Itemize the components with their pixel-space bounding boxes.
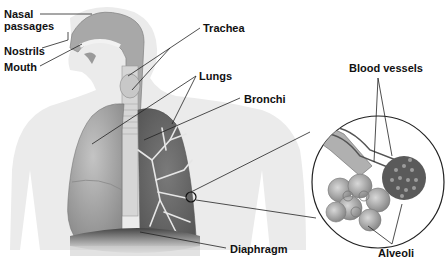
label-alveoli: Alveoli bbox=[378, 247, 414, 259]
respiratory-diagram: Nasal passages Nostrils Mouth Trachea Lu… bbox=[0, 0, 446, 269]
diagram-artwork bbox=[0, 0, 446, 269]
label-nasal-passages-1: Nasal bbox=[4, 8, 33, 20]
label-trachea: Trachea bbox=[203, 22, 245, 34]
label-nostrils: Nostrils bbox=[4, 45, 45, 57]
label-lungs: Lungs bbox=[199, 70, 232, 82]
label-nasal-passages-2: passages bbox=[4, 20, 54, 32]
trachea-shape bbox=[120, 66, 140, 216]
label-diaphragm: Diaphragm bbox=[230, 243, 287, 255]
label-mouth: Mouth bbox=[4, 61, 37, 73]
label-bronchi: Bronchi bbox=[244, 93, 286, 105]
label-blood-vessels: Blood vessels bbox=[349, 62, 423, 74]
alveoli-magnified bbox=[312, 116, 444, 248]
